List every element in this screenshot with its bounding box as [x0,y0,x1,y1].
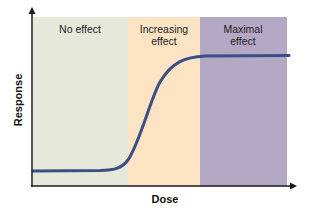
dose-response-chart: No effect Increasing effect Maximal effe… [0,0,309,212]
maximal-effect-label-line-2: effect [230,35,256,47]
maximal-effect-label-line-1: Maximal [223,23,262,35]
increasing-effect-label-line-1: Increasing [140,23,189,35]
x-axis-arrow-icon [290,183,297,190]
y-axis-arrow-icon [29,7,36,14]
x-axis-label: Dose [152,193,179,205]
no-effect-label: No effect [59,23,101,35]
increasing-effect-label-line-2: effect [151,35,177,47]
y-axis-label: Response [12,74,24,127]
no-effect-region [33,17,128,186]
